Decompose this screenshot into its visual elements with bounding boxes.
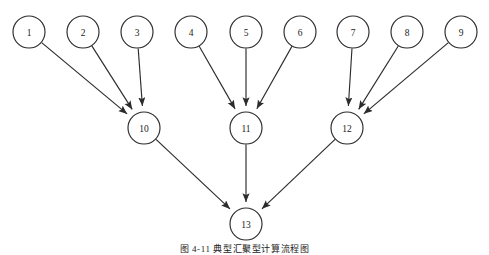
node-label-9: 9 [459,28,464,38]
node-8[interactable]: 8 [391,16,423,48]
node-label-1: 1 [27,28,32,38]
node-4[interactable]: 4 [175,16,207,48]
edge-12-to-13 [262,139,335,208]
node-5[interactable]: 5 [230,16,262,48]
node-1[interactable]: 1 [13,16,45,48]
node-3[interactable]: 3 [121,16,153,48]
node-7[interactable]: 7 [337,16,369,48]
edge-6-to-11 [257,46,292,108]
node-label-6: 6 [298,28,303,38]
node-label-11: 11 [241,124,250,134]
node-2[interactable]: 2 [67,16,99,48]
node-label-2: 2 [81,28,86,38]
node-13[interactable]: 13 [230,208,262,240]
nodes-group: 12345678910111213 [13,16,477,240]
node-label-7: 7 [351,28,356,38]
node-label-8: 8 [405,28,410,38]
node-10[interactable]: 10 [128,112,160,144]
node-12[interactable]: 12 [331,112,363,144]
edge-2-to-10 [92,46,132,110]
node-11[interactable]: 11 [230,112,262,144]
edge-8-to-12 [359,46,399,109]
node-label-13: 13 [241,220,251,230]
node-label-12: 12 [342,124,352,134]
edge-3-to-10 [138,48,142,106]
node-label-4: 4 [189,28,194,38]
node-label-10: 10 [139,124,149,134]
edge-10-to-13 [156,139,230,209]
edge-1-to-10 [42,43,127,114]
node-6[interactable]: 6 [284,16,316,48]
edge-9-to-12 [364,43,449,114]
edge-4-to-11 [199,46,235,109]
node-label-3: 3 [135,28,140,38]
node-label-5: 5 [244,28,249,38]
edge-7-to-12 [348,48,352,106]
figure-caption: 图 4-11 典型汇聚型计算流程图 [0,243,489,255]
node-9[interactable]: 9 [445,16,477,48]
